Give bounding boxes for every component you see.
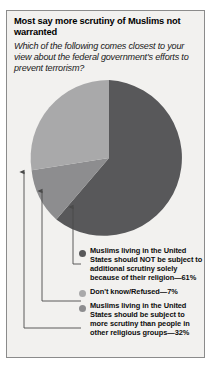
pie-slice-not-subject-to-scrutiny bbox=[56, 80, 182, 236]
legend-bullet-icon bbox=[79, 305, 86, 312]
chart-title: Most say more scrutiny of Muslims not wa… bbox=[14, 16, 197, 39]
chart-legend: Muslims living in the United States shou… bbox=[79, 247, 203, 343]
legend-item-label: Don't know/Refused—7% bbox=[90, 288, 178, 297]
legend-item-more-scrutiny: Muslims living in the United States shou… bbox=[79, 302, 203, 338]
legend-item-not-subject-to-scrutiny: Muslims living in the United States shou… bbox=[79, 247, 203, 283]
legend-item-label: Muslims living in the United States shou… bbox=[90, 247, 203, 283]
legend-item-label: Muslims living in the United States shou… bbox=[90, 302, 203, 338]
legend-item-dont-know: Don't know/Refused—7% bbox=[79, 288, 203, 298]
chart-subtitle: Which of the following comes closest to … bbox=[14, 41, 197, 75]
leader-line-more-scrutiny bbox=[24, 172, 81, 328]
figure-header: Most say more scrutiny of Muslims not wa… bbox=[7, 11, 204, 75]
legend-bullet-icon bbox=[79, 250, 86, 257]
chart-figure: Most say more scrutiny of Muslims not wa… bbox=[6, 10, 205, 358]
legend-bullet-icon bbox=[79, 290, 86, 297]
pie-slice-more-scrutiny bbox=[32, 158, 109, 220]
leader-line-dont-know bbox=[42, 191, 81, 301]
pie-slice-dont-know bbox=[31, 80, 109, 170]
